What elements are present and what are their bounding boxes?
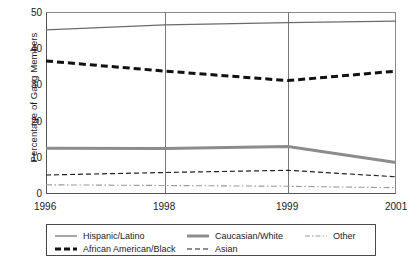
series-line-hispanic-latino: [46, 21, 396, 30]
legend-swatch-asian: [187, 244, 209, 254]
legend-item-african-american-black: African American/Black: [55, 243, 176, 255]
legend-label-caucasian-white: Caucasian/White: [215, 231, 283, 241]
chart-container: Percentage of Gang Members 50 40 30 20 1…: [0, 0, 418, 271]
legend-label-asian: Asian: [215, 244, 238, 254]
legend-swatch-hispanic-latino: [55, 231, 77, 241]
chart-legend: Hispanic/Latino African American/Black C…: [46, 224, 376, 256]
series-line-african-american-black: [46, 61, 396, 81]
series-lines: [46, 21, 396, 188]
series-line-other: [46, 185, 396, 188]
series-line-asian: [46, 170, 396, 177]
legend-item-hispanic-latino: Hispanic/Latino: [55, 230, 145, 242]
legend-swatch-african-american-black: [55, 244, 77, 254]
series-line-caucasian-white: [46, 146, 396, 162]
legend-label-african-american-black: African American/Black: [83, 244, 176, 254]
legend-swatch-other: [305, 231, 327, 241]
legend-label-other: Other: [333, 231, 356, 241]
axes-frame: [46, 12, 396, 194]
legend-swatch-caucasian-white: [187, 231, 209, 241]
legend-item-asian: Asian: [187, 243, 238, 255]
legend-item-caucasian-white: Caucasian/White: [187, 230, 283, 242]
legend-item-other: Other: [305, 230, 356, 242]
legend-label-hispanic-latino: Hispanic/Latino: [83, 231, 145, 241]
